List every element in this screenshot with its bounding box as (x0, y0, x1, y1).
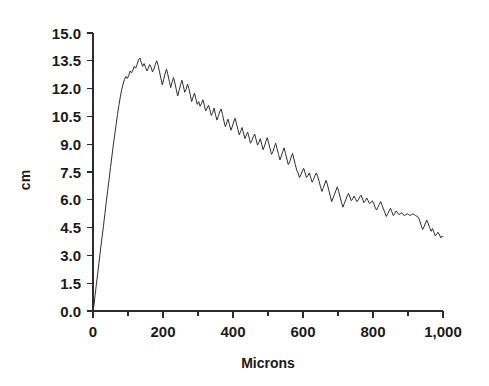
x-axis-tick-label: 600 (290, 323, 315, 340)
y-axis-tick-label: 15.0 (52, 25, 81, 42)
chart-figure: 0.01.53.04.56.07.59.010.512.013.515.0 02… (0, 0, 489, 386)
x-axis-tick-label: 1,000 (424, 323, 462, 340)
x-axis-tick-label: 400 (220, 323, 245, 340)
y-axis-title: cm (17, 170, 33, 190)
y-axis-tick-label: 3.0 (60, 247, 81, 264)
x-axis-tick-label: 800 (360, 323, 385, 340)
y-axis-tick-label: 4.5 (60, 219, 81, 236)
y-axis-tick-label: 9.0 (60, 136, 81, 153)
x-axis-title: Microns (241, 355, 295, 371)
y-axis-tick-label: 1.5 (60, 275, 81, 292)
y-axis-tick-label: 13.5 (52, 52, 81, 69)
y-axis-tick-label: 0.0 (60, 303, 81, 320)
y-axis-tick-label: 6.0 (60, 191, 81, 208)
x-axis-tick-label: 0 (89, 323, 97, 340)
y-axis-tick-label: 7.5 (60, 164, 81, 181)
x-axis-tick-label: 200 (150, 323, 175, 340)
y-axis-tick-label: 12.0 (52, 80, 81, 97)
y-axis-tick-label: 10.5 (52, 108, 81, 125)
chart-plot-svg: 0.01.53.04.56.07.59.010.512.013.515.0 02… (0, 0, 489, 386)
